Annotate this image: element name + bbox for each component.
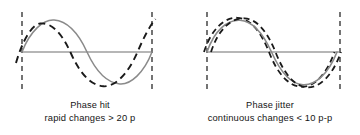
phase-jitter-caption-line-2: continuous changes < 10 p-p <box>180 112 360 125</box>
phase-diagram-figure: Phase hit rapid changes > 20 p <box>0 0 360 135</box>
phase-hit-shifted-wave <box>16 19 156 86</box>
phase-jitter-plot <box>180 0 360 100</box>
phase-hit-waveform-svg <box>0 0 180 100</box>
phase-hit-caption-line-1: Phase hit <box>0 99 180 112</box>
panel-phase-jitter: Phase jitter continuous changes < 10 p-p <box>180 0 360 135</box>
phase-jitter-caption: Phase jitter continuous changes < 10 p-p <box>180 99 360 124</box>
panel-phase-hit: Phase hit rapid changes > 20 p <box>0 0 180 135</box>
phase-hit-caption-line-2: rapid changes > 20 p <box>0 112 180 125</box>
phase-jitter-waveform-svg <box>180 0 360 100</box>
phase-hit-caption: Phase hit rapid changes > 20 p <box>0 99 180 124</box>
phase-jitter-caption-line-1: Phase jitter <box>180 99 360 112</box>
phase-hit-plot <box>0 0 180 100</box>
